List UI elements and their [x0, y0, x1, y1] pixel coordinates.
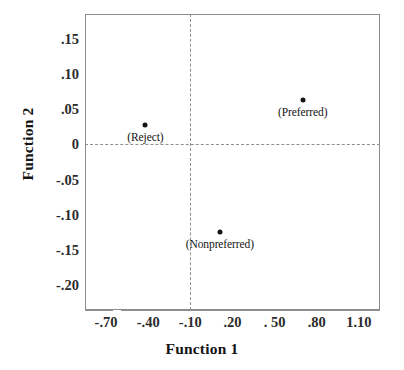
x-tick-label: -.70: [95, 314, 118, 331]
x-axis-break-left: [85, 310, 113, 311]
y-tick-label: 0: [72, 136, 79, 153]
y-axis-title: Function 2: [19, 64, 37, 224]
y-tick-label: -.20: [56, 277, 79, 294]
x-tick-label: . 50: [264, 314, 286, 331]
x-tick-label: -.40: [137, 314, 160, 331]
data-point-label: (Reject): [127, 131, 163, 143]
y-tick-label: -.15: [56, 242, 79, 259]
data-point: [143, 122, 148, 127]
plot-area-frame: [85, 14, 380, 310]
data-point: [300, 97, 305, 102]
zero-reference-line-vertical: [190, 14, 191, 310]
data-point-label: (Preferred): [278, 106, 327, 118]
y-tick-label: .05: [61, 101, 79, 118]
y-tick-label: .15: [61, 30, 79, 47]
scatter-plot-figure: .15.10.050-.05-.10-.15-.20 -.70-.40-.10.…: [0, 0, 404, 370]
zero-reference-line-horizontal: [85, 144, 380, 145]
y-tick-label: -.10: [56, 206, 79, 223]
x-axis-title: Function 1: [0, 340, 404, 358]
y-axis-tick-labels: .15.10.050-.05-.10-.15-.20: [0, 0, 79, 370]
y-tick-label: .10: [61, 65, 79, 82]
data-point-label: (Nonpreferred): [186, 238, 254, 250]
x-tick-label: -.10: [179, 314, 202, 331]
x-tick-label: 1.10: [346, 314, 371, 331]
x-axis-break-right: [121, 310, 380, 311]
y-tick-label: -.05: [56, 171, 79, 188]
data-point: [217, 230, 222, 235]
x-tick-label: .80: [308, 314, 326, 331]
x-tick-label: .20: [223, 314, 241, 331]
